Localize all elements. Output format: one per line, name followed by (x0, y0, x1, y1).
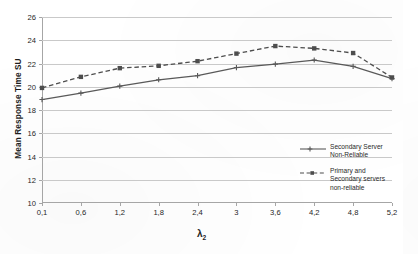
x-axis-tick-label: 4,8 (348, 208, 359, 217)
data-point-marker (117, 84, 122, 89)
data-point-marker (273, 44, 277, 48)
data-point-marker (195, 73, 200, 78)
legend-swatch-dashed (300, 170, 326, 176)
data-point-marker (40, 86, 44, 90)
legend-swatch-solid (300, 146, 326, 152)
x-axis-tick-label: 1,2 (114, 208, 125, 217)
data-point-marker (273, 61, 278, 66)
legend-label-line-2: Non-Reliable (330, 151, 418, 159)
x-axis-tick (159, 203, 160, 206)
y-axis-title: Mean Response Time SU (14, 29, 23, 189)
data-point-marker (351, 64, 356, 69)
x-axis-tick (353, 203, 354, 206)
data-point-marker (78, 91, 83, 96)
x-axis-tick-label: 2,4 (192, 208, 203, 217)
y-axis-tick-label: 18 (28, 106, 36, 115)
legend-label-line-2: Secondary servers (330, 175, 418, 183)
x-axis-tick (42, 203, 43, 206)
legend-label-line-1: Secondary Server (330, 143, 418, 151)
x-axis-tick (314, 203, 315, 206)
plot-area: 101214161820222426 0,10,61,21,82,433,64,… (42, 17, 392, 203)
y-axis-tick-label: 24 (28, 36, 36, 45)
legend-label-line-1: Primary and (330, 167, 418, 175)
data-point-marker (234, 51, 238, 55)
x-axis-tick-label: 0,1 (37, 208, 48, 217)
x-axis-tick-label: 5,2 (387, 208, 398, 217)
legend-entry-primary-and-secondary: Primary and Secondary servers non-reliab… (300, 167, 418, 192)
data-point-marker (195, 59, 199, 63)
x-axis-tick (236, 203, 237, 206)
data-point-marker (156, 64, 160, 68)
x-axis-tick (81, 203, 82, 206)
data-point-marker (351, 51, 355, 55)
x-axis-tick (392, 203, 393, 206)
y-axis-tick-label: 22 (28, 59, 36, 68)
x-axis-tick (198, 203, 199, 206)
x-axis-tick-label: 0,6 (76, 208, 87, 217)
data-point-marker (79, 75, 83, 79)
x-axis-tick-label: 3 (234, 208, 238, 217)
legend-entry-secondary-server: Secondary Server Non-Reliable (300, 143, 418, 160)
data-point-marker (118, 66, 122, 70)
legend-label-line-3: non-reliable (330, 184, 418, 192)
y-axis-tick-label: 12 (28, 175, 36, 184)
x-axis-tick (275, 203, 276, 206)
data-point-marker (312, 57, 317, 62)
series-line-1 (42, 46, 392, 88)
chart-legend: Secondary Server Non-Reliable Primary an… (300, 143, 418, 199)
x-axis-tick-label: 3,6 (270, 208, 281, 217)
y-axis-tick-label: 10 (28, 199, 36, 208)
data-point-marker (234, 65, 239, 70)
x-axis-title-subscript: 2 (202, 234, 206, 241)
data-point-marker (390, 75, 394, 79)
series-line-0 (42, 60, 392, 100)
data-point-marker (39, 97, 44, 102)
x-axis-tick-label: 1,8 (153, 208, 164, 217)
x-axis-title: λ2 (0, 228, 403, 241)
y-axis-tick-label: 14 (28, 152, 36, 161)
data-point-marker (156, 77, 161, 82)
x-axis-tick-label: 4,2 (309, 208, 320, 217)
y-axis-tick-label: 16 (28, 129, 36, 138)
data-point-marker (312, 46, 316, 50)
x-axis-tick (120, 203, 121, 206)
y-axis-tick-label: 26 (28, 13, 36, 22)
y-axis-tick-label: 20 (28, 82, 36, 91)
